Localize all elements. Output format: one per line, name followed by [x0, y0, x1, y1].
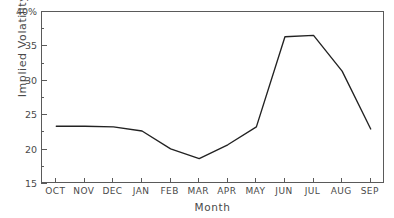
x-axis-tick-label: APR — [217, 186, 236, 196]
data-line-svg — [42, 12, 385, 184]
x-axis-tick-label: MAR — [188, 186, 209, 196]
x-axis-tick-label: MAY — [245, 186, 265, 196]
y-axis-tick-label: 20 — [25, 143, 37, 154]
x-axis-tick-label: FEB — [161, 186, 179, 196]
x-axis-tick-label: DEC — [102, 186, 122, 196]
y-axis-title: Implied Volatility — [16, 0, 32, 126]
x-axis-tick-label: SEP — [361, 186, 379, 196]
x-axis-tick-label: AUG — [331, 186, 352, 196]
x-axis-tick-label: JUN — [275, 186, 292, 196]
y-axis-tick-label: 15 — [25, 178, 37, 189]
x-axis-title: Month — [41, 201, 384, 213]
x-axis-tick-label: NOV — [73, 186, 94, 196]
x-axis-tick-label: JAN — [133, 186, 150, 196]
x-axis-tick-label: JUL — [305, 186, 320, 196]
x-axis-tick-label: OCT — [45, 186, 65, 196]
implied-volatility-line — [56, 35, 370, 158]
implied-volatility-chart: Implied Volatility 152025303540%OCTNOVDE… — [0, 0, 394, 218]
plot-area — [41, 11, 384, 183]
